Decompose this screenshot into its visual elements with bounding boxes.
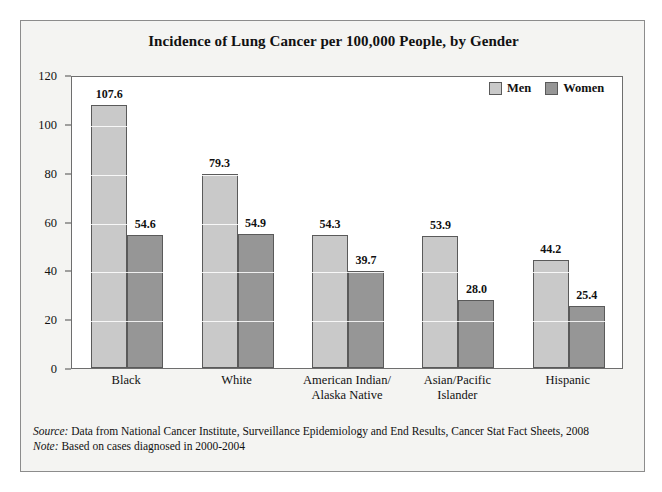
plot-inner: 107.654.679.354.954.339.753.928.044.225.… (72, 77, 622, 368)
gridline-80 (72, 175, 622, 176)
footnote-source-key: Source: (33, 425, 68, 437)
bar-value-women-3: 28.0 (466, 282, 487, 297)
bar-women-2 (348, 271, 384, 368)
bar-value-women-4: 25.4 (576, 288, 597, 303)
bar-men-2 (312, 235, 348, 368)
gridline-100 (72, 126, 622, 127)
plot-area: 107.654.679.354.954.339.753.928.044.225.… (71, 76, 623, 369)
x-axis-category-labels: BlackWhiteAmerican Indian/Alaska NativeA… (71, 373, 623, 419)
bar-value-women-0: 54.6 (135, 217, 156, 232)
footnote-note-text: Based on cases diagnosed in 2000-2004 (59, 440, 246, 452)
x-axis-label-line: Alaska Native (292, 388, 402, 403)
legend-label-women: Women (563, 81, 604, 96)
bar-men-4 (533, 260, 569, 368)
legend-swatch-women-icon (545, 82, 558, 95)
x-axis-label-0: Black (71, 373, 181, 388)
legend-item-men: Men (489, 81, 531, 96)
bar-men-0 (91, 105, 127, 368)
bar-women-1 (238, 234, 274, 368)
page-title: Incidence of Lung Cancer per 100,000 Peo… (21, 33, 646, 50)
x-axis-label-4: Hispanic (513, 373, 623, 388)
bar-value-women-2: 39.7 (356, 253, 377, 268)
footnote-source: Source: Data from National Cancer Instit… (33, 424, 633, 439)
bar-value-men-2: 54.3 (320, 217, 341, 232)
bar-value-women-1: 54.9 (245, 216, 266, 231)
bar-women-4 (569, 306, 605, 368)
bar-men-3 (422, 236, 458, 368)
footnote-note-key: Note: (33, 440, 59, 452)
x-axis-label-line: White (181, 373, 291, 388)
x-axis-label-2: American Indian/Alaska Native (292, 373, 402, 403)
x-axis-label-line: Asian/Pacific (402, 373, 512, 388)
legend-swatch-men-icon (489, 82, 502, 95)
bar-women-0 (127, 235, 163, 368)
bar-value-men-3: 53.9 (430, 218, 451, 233)
x-axis-label-1: White (181, 373, 291, 388)
bar-value-men-4: 44.2 (540, 242, 561, 257)
footnote-source-text: Data from National Cancer Institute, Sur… (68, 425, 589, 437)
footnotes: Source: Data from National Cancer Instit… (33, 424, 633, 454)
footnote-note: Note: Based on cases diagnosed in 2000-2… (33, 439, 633, 454)
bar-value-men-0: 107.6 (96, 87, 123, 102)
x-axis-label-line: Islander (402, 388, 512, 403)
y-axis-tick-marks (21, 76, 71, 369)
figure-panel: Incidence of Lung Cancer per 100,000 Peo… (20, 20, 645, 472)
x-axis-label-line: American Indian/ (292, 373, 402, 388)
bar-men-1 (202, 174, 238, 368)
x-axis-label-3: Asian/PacificIslander (402, 373, 512, 403)
bar-value-men-1: 79.3 (209, 156, 230, 171)
legend-label-men: Men (507, 81, 531, 96)
chart-legend: Men Women (489, 81, 604, 96)
x-axis-label-line: Black (71, 373, 181, 388)
bar-women-3 (458, 300, 494, 368)
x-axis-label-line: Hispanic (513, 373, 623, 388)
legend-item-women: Women (545, 81, 604, 96)
